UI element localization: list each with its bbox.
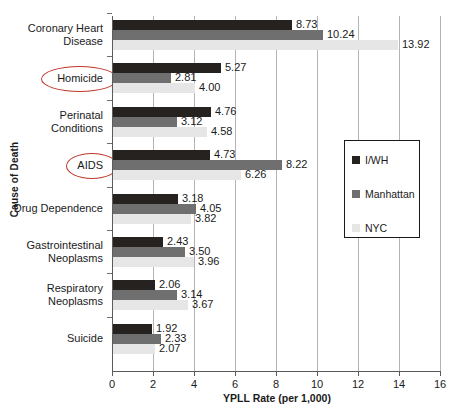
category-label-line: Coronary Heart [0, 22, 103, 35]
bar-nyc [113, 127, 207, 137]
gridline [317, 16, 318, 371]
bar-nyc [113, 214, 191, 224]
x-tick-label: 8 [261, 378, 291, 390]
category-label-line: Gastrointestinal [0, 239, 103, 252]
x-axis-title: YPLL Rate (per 1,000) [112, 392, 442, 404]
bar-value-label: 10.24 [327, 29, 355, 39]
bar-nyc [113, 300, 188, 310]
bar-i-wh [113, 194, 178, 204]
bar-nyc [113, 40, 398, 50]
bar-value-label: 2.06 [159, 279, 180, 289]
legend-label: Manhattan [365, 188, 415, 200]
category-label-line: Suicide [0, 332, 103, 345]
category-label-line: Neoplasms [0, 252, 103, 265]
legend-label: NYC [365, 222, 387, 234]
bar-value-label: 5.27 [225, 62, 246, 72]
category-label-line: Perinatal [0, 109, 103, 122]
y-axis-tick [107, 100, 112, 101]
bar-value-label: 4.73 [214, 149, 235, 159]
y-axis-tick [107, 273, 112, 274]
category-label: PerinatalConditions [0, 109, 112, 135]
bar-nyc [113, 170, 241, 180]
legend-swatch-icon [352, 224, 360, 232]
y-axis-tick [107, 187, 112, 188]
category-label-line: Drug Dependence [0, 202, 103, 215]
x-tick-label: 16 [425, 378, 449, 390]
bar-value-label: 6.26 [245, 169, 266, 179]
x-axis-tick [317, 371, 318, 376]
category-label: GastrointestinalNeoplasms [0, 239, 112, 265]
x-tick-label: 0 [97, 378, 127, 390]
bar-value-label: 4.76 [215, 106, 236, 116]
bar-i-wh [113, 280, 155, 290]
legend-swatch-icon [352, 156, 360, 164]
bar-manhattan [113, 73, 171, 83]
x-axis-tick [358, 371, 359, 376]
category-label-line: Homicide [0, 72, 103, 85]
x-axis-tick [235, 371, 236, 376]
category-label: AIDS [0, 159, 112, 172]
bar-value-label: 2.43 [167, 236, 188, 246]
bar-value-label: 3.82 [195, 213, 216, 223]
bar-value-label: 8.73 [296, 19, 317, 29]
bar-manhattan [113, 334, 161, 344]
category-label: Homicide [0, 72, 112, 85]
category-label: RespiratoryNeoplasms [0, 282, 112, 308]
y-axis-tick [107, 143, 112, 144]
category-label-line: Neoplasms [0, 295, 103, 308]
x-axis-tick [440, 371, 441, 376]
x-axis-tick [194, 371, 195, 376]
ypll-bar-chart: Cause of Death Coronary HeartDiseaseHomi… [0, 0, 449, 416]
bar-nyc [113, 83, 195, 93]
bar-manhattan [113, 290, 177, 300]
x-axis-tick [399, 371, 400, 376]
bar-nyc [113, 257, 194, 267]
bar-manhattan [113, 247, 185, 257]
x-tick-label: 6 [220, 378, 250, 390]
bar-value-label: 3.67 [192, 299, 213, 309]
bar-i-wh [113, 63, 221, 73]
bar-value-label: 4.58 [211, 126, 232, 136]
category-label: Coronary HeartDisease [0, 22, 112, 48]
legend-label: I/WH [365, 154, 388, 166]
bar-i-wh [113, 20, 292, 30]
y-axis-tick [107, 317, 112, 318]
category-label-line: Disease [0, 35, 103, 48]
x-tick-label: 12 [343, 378, 373, 390]
bar-manhattan [113, 30, 323, 40]
bar-i-wh [113, 150, 210, 160]
gridline [276, 16, 277, 371]
bar-value-label: 4.00 [199, 82, 220, 92]
category-label-line: Conditions [0, 122, 103, 135]
x-tick-label: 10 [302, 378, 332, 390]
x-tick-label: 2 [138, 378, 168, 390]
gridline [440, 16, 441, 371]
bar-value-label: 2.07 [159, 343, 180, 353]
bar-value-label: 13.92 [402, 39, 430, 49]
bar-value-label: 2.81 [175, 72, 196, 82]
x-tick-label: 4 [179, 378, 209, 390]
category-label: Drug Dependence [0, 202, 112, 215]
category-label-line: AIDS [0, 159, 103, 172]
category-label: Suicide [0, 332, 112, 345]
bar-manhattan [113, 204, 196, 214]
x-axis-tick [276, 371, 277, 376]
category-label-column: Coronary HeartDiseaseHomicidePerinatalCo… [0, 0, 112, 416]
bar-i-wh [113, 324, 152, 334]
bar-value-label: 3.12 [181, 116, 202, 126]
y-axis-tick [107, 230, 112, 231]
category-label-line: Respiratory [0, 282, 103, 295]
x-axis-tick [153, 371, 154, 376]
bar-nyc [113, 344, 155, 354]
y-axis-tick [107, 13, 112, 14]
x-tick-label: 14 [384, 378, 414, 390]
x-axis-tick [112, 371, 113, 376]
legend-swatch-icon [352, 190, 360, 198]
chart-legend: I/WHManhattanNYC [344, 140, 420, 238]
bar-i-wh [113, 237, 163, 247]
bar-value-label: 3.96 [198, 256, 219, 266]
y-axis-tick [107, 56, 112, 57]
bar-value-label: 8.22 [286, 159, 307, 169]
bar-manhattan [113, 117, 177, 127]
